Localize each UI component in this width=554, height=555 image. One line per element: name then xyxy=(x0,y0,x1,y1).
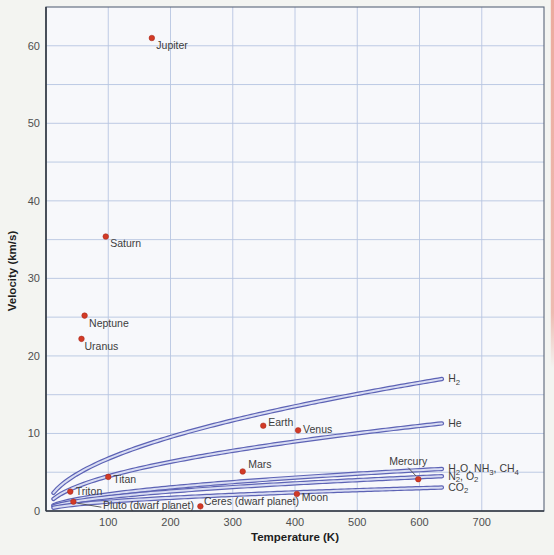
y-tick-label-40: 40 xyxy=(28,195,40,207)
data-point-ceres xyxy=(198,504,204,510)
escape-velocity-chart-figure: H2HeH2O, NH3, CH4N2, O2CO2JupiterSaturnN… xyxy=(0,0,554,555)
data-point-uranus xyxy=(79,336,85,342)
x-tick-label-600: 600 xyxy=(410,516,428,528)
point-label-moon: Moon xyxy=(302,491,328,503)
escape-velocity-vs-temperature-chart: H2HeH2O, NH3, CH4N2, O2CO2JupiterSaturnN… xyxy=(0,0,554,555)
y-tick-label-0: 0 xyxy=(34,505,40,517)
point-label-ceres: Ceres (dwarf planet) xyxy=(204,495,299,507)
curve-label-he: He xyxy=(448,417,462,429)
point-label-mars: Mars xyxy=(248,458,271,470)
x-tick-label-100: 100 xyxy=(99,516,117,528)
data-point-venus xyxy=(295,428,301,434)
data-point-neptune xyxy=(82,313,88,319)
x-tick-label-300: 300 xyxy=(224,516,242,528)
data-point-pluto xyxy=(71,499,77,505)
point-label-triton: Triton xyxy=(76,485,103,497)
data-point-saturn xyxy=(103,234,109,240)
point-label-jupiter: Jupiter xyxy=(156,39,188,51)
x-tick-label-500: 500 xyxy=(348,516,366,528)
point-label-uranus: Uranus xyxy=(84,340,118,352)
point-label-venus: Venus xyxy=(303,423,332,435)
data-point-mars xyxy=(240,469,246,475)
point-label-titan: Titan xyxy=(113,473,136,485)
y-axis-title: Velocity (km/s) xyxy=(6,231,18,312)
point-label-neptune: Neptune xyxy=(89,317,129,329)
x-axis-title: Temperature (K) xyxy=(251,531,339,543)
data-point-titan xyxy=(105,474,111,480)
x-tick-label-200: 200 xyxy=(161,516,179,528)
x-tick-label-400: 400 xyxy=(286,516,304,528)
point-label-earth: Earth xyxy=(268,416,293,428)
data-point-mercury xyxy=(415,476,421,482)
point-label-pluto: Pluto (dwarf planet) xyxy=(103,499,194,511)
y-tick-label-30: 30 xyxy=(28,272,40,284)
y-tick-label-50: 50 xyxy=(28,117,40,129)
y-tick-label-60: 60 xyxy=(28,40,40,52)
x-tick-label-700: 700 xyxy=(473,516,491,528)
y-tick-label-10: 10 xyxy=(28,427,40,439)
point-label-saturn: Saturn xyxy=(110,237,141,249)
y-tick-label-20: 20 xyxy=(28,350,40,362)
data-point-earth xyxy=(260,423,266,429)
point-label-mercury: Mercury xyxy=(389,455,428,467)
data-point-triton xyxy=(67,489,73,495)
data-point-jupiter xyxy=(149,35,155,41)
